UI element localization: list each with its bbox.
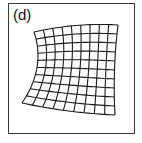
grid-line-horizontal bbox=[36, 33, 117, 39]
grid-line-horizontal bbox=[33, 82, 114, 88]
grid-line-horizontal bbox=[38, 60, 115, 61]
warped-grid-mesh bbox=[0, 0, 142, 143]
grid-line-vertical bbox=[22, 32, 38, 103]
grid-line-horizontal bbox=[37, 42, 116, 46]
grid-line-horizontal bbox=[38, 51, 115, 53]
grid-line-horizontal bbox=[30, 89, 114, 97]
grid-line-horizontal bbox=[34, 24, 118, 32]
grid-line-horizontal bbox=[26, 96, 114, 106]
grid-line-vertical bbox=[114, 25, 118, 115]
grid-line-horizontal bbox=[37, 68, 115, 71]
grid-line-horizontal bbox=[35, 75, 114, 79]
